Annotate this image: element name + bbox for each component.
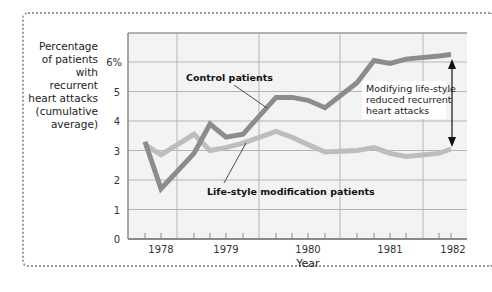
x-tick-label: 1980 (295, 244, 320, 255)
plot-area (128, 33, 467, 239)
y-tick-label: 6% (106, 57, 122, 68)
y-tick-label: 0 (114, 234, 120, 245)
x-tick-label: 1978 (148, 244, 173, 255)
y-tick-label: 2 (114, 175, 120, 186)
x-tick-label: 1979 (213, 244, 238, 255)
x-axis-title: Year (295, 257, 320, 270)
y-tick-label: 3 (114, 146, 120, 157)
y-tick-label: 4 (114, 116, 120, 127)
lifestyle-patients-label: Life-style modification patients (207, 186, 375, 197)
y-tick-label: 1 (114, 205, 120, 216)
x-tick-label: 1982 (440, 244, 465, 255)
annotation-text-line: heart attacks (366, 105, 429, 116)
annotation-text-line: reduced recurrent (366, 94, 452, 105)
x-tick-label: 1981 (377, 244, 402, 255)
annotation-text-line: Modifying life-style (366, 83, 456, 94)
control-patients-label: Control patients (186, 72, 273, 83)
y-tick-label: 5 (114, 87, 120, 98)
